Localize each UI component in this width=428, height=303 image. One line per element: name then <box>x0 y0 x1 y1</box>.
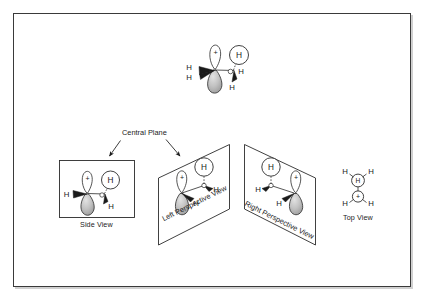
atom-label-h-top-left-a: H <box>186 63 192 72</box>
bond-junction-circle <box>228 69 233 74</box>
side-hydrogen-sphere-label: H <box>108 176 114 185</box>
right-atom-label-h-lower: H <box>276 199 282 208</box>
orbital-plus-sign: + <box>213 48 217 57</box>
arrow-to-side-view <box>110 141 121 157</box>
side-atom-label-h-left: H <box>64 190 70 199</box>
right-bond-center-left <box>271 186 294 194</box>
right-orbital-plus-sign: + <box>294 174 298 181</box>
bond-dashed-to-sphere <box>234 64 237 71</box>
left-hydrogen-sphere-label: H <box>201 163 207 172</box>
top-view-hydrogen-circle-label: H <box>356 177 361 184</box>
right-atom-label-h-left: H <box>255 185 261 194</box>
top-view-atom-label-h-lower-left: H <box>342 199 348 208</box>
top-view-atom-label-h-lower-right: H <box>368 199 374 208</box>
top-view-atom-label-h-upper-left: H <box>342 167 348 176</box>
atom-label-h-top-left-b: H <box>186 73 192 82</box>
right-orbital-lower-lobe <box>289 194 302 215</box>
side-atom-label-h-lower-right: H <box>108 202 114 211</box>
hydrogen-sphere-label: H <box>236 50 242 60</box>
right-hydrogen-sphere-label: H <box>268 163 274 172</box>
diagram-page: + H H H H H <box>0 0 428 303</box>
top-view-bond-upper-left <box>350 174 354 177</box>
atom-label-h-top-bottom: H <box>229 83 235 92</box>
arrow-to-left-perspective <box>166 140 180 157</box>
top-view-bond-lower-left <box>350 200 354 203</box>
side-view-caption: Side View <box>80 221 113 228</box>
side-view-panel: + H H H <box>60 161 135 218</box>
top-view-panel: H + H H H H <box>342 167 374 208</box>
side-view-box <box>60 161 135 218</box>
central-plane-arrows <box>110 140 181 157</box>
top-view-bond-upper-right <box>363 174 367 177</box>
top-view-caption: Top View <box>343 214 373 221</box>
top-view-bond-lower-right <box>363 200 367 203</box>
central-plane-label: Central Plane <box>122 129 167 136</box>
left-orbital-plus-sign: + <box>180 174 184 181</box>
top-molecule-group: + H H H H H <box>186 45 248 93</box>
side-orbital-plus-sign: + <box>85 175 89 182</box>
top-view-orbital-plus-sign: + <box>356 193 360 200</box>
side-bond-junction-circle <box>100 193 104 197</box>
top-view-atom-label-h-upper-right: H <box>368 167 374 176</box>
atom-label-h-top-right: H <box>238 67 244 76</box>
diagram-canvas: + H H H H H <box>0 0 428 303</box>
